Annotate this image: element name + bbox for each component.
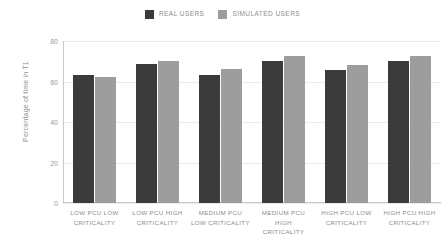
x-axis-tick-label: MEDIUM PCULOW CRITICALITY [189,208,252,237]
legend-item-simulated-users[interactable]: SIMULATED USERS [218,10,300,19]
gridline [63,203,441,204]
legend-label: SIMULATED USERS [232,11,300,18]
bar[interactable] [262,61,283,203]
bar[interactable] [73,75,94,203]
bar-group [189,41,252,203]
bar-series-container [63,41,441,203]
bar-group [378,41,441,203]
bar[interactable] [158,61,179,203]
x-axis-tick-label: LOW PCU LOWCRITICALITY [63,208,126,237]
x-axis-tick-label: HIGH PCU LOWCRITICALITY [315,208,378,237]
y-axis-tick-label: 40 [36,119,58,126]
y-axis-tick-labels: 020406080 [33,41,58,203]
bar-group [315,41,378,203]
y-axis-title-text: Percentage of time in T1 [22,61,29,142]
x-axis-tick-label: MEDIUM PCUHIGHCRITICALITY [252,208,315,237]
bar[interactable] [347,65,368,203]
bar[interactable] [199,75,220,203]
plot-area [63,41,441,203]
bar[interactable] [325,70,346,203]
y-axis-tick-label: 20 [36,159,58,166]
bar[interactable] [284,56,305,203]
x-axis-tick-label: HIGH PCU HIGHCRITICALITY [378,208,441,237]
chart-legend: REAL USERS SIMULATED USERS [0,10,445,19]
bar[interactable] [410,56,431,203]
x-axis-tick-label: LOW PCU HIGHCRITICALITY [126,208,189,237]
bar[interactable] [388,61,409,203]
y-axis-tick-label: 60 [36,78,58,85]
square-swatch-icon [145,10,154,19]
legend-item-real-users[interactable]: REAL USERS [145,10,204,19]
bar[interactable] [221,69,242,203]
square-swatch-icon [218,10,227,19]
bar-group [63,41,126,203]
y-axis-tick-label: 80 [36,38,58,45]
bar[interactable] [136,64,157,203]
bar-chart: REAL USERS SIMULATED USERS Percentage of… [0,0,445,246]
bar-group [252,41,315,203]
y-axis-tick-label: 0 [36,200,58,207]
y-axis-title: Percentage of time in T1 [18,0,32,203]
legend-label: REAL USERS [159,11,204,18]
x-axis-tick-labels: LOW PCU LOWCRITICALITYLOW PCU HIGHCRITIC… [63,208,441,237]
bar[interactable] [95,77,116,203]
bar-group [126,41,189,203]
